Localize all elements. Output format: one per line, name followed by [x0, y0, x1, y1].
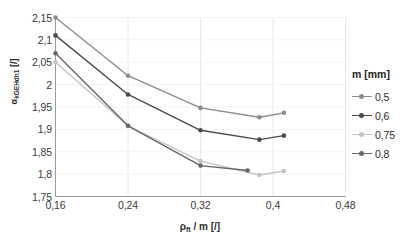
data-point — [53, 60, 58, 65]
data-point — [53, 51, 58, 56]
legend-items: 0,50,60,750,8 — [352, 87, 412, 163]
legend-label: 0,5 — [375, 91, 389, 103]
legend: m [mm] 0,50,60,750,8 — [352, 68, 412, 163]
legend-item[interactable]: 0,75 — [352, 125, 412, 144]
legend-swatch — [352, 149, 372, 159]
data-point — [245, 168, 250, 173]
x-axis-tick-labels: 0,160,240,320,40,48 — [55, 199, 345, 213]
data-point — [53, 15, 58, 20]
data-point — [257, 115, 262, 120]
legend-label: 0,75 — [375, 129, 395, 141]
legend-item[interactable]: 0,5 — [352, 87, 412, 106]
legend-marker — [359, 113, 364, 118]
data-point — [198, 128, 203, 133]
legend-label: 0,8 — [375, 148, 389, 160]
data-point — [126, 123, 131, 128]
data-point — [198, 159, 203, 164]
data-point — [282, 111, 287, 116]
series-line — [56, 18, 284, 118]
x-tick-label: 0,48 — [323, 199, 369, 211]
x-tick-label: 0,32 — [178, 199, 224, 211]
series-line — [56, 62, 284, 175]
data-point — [126, 73, 131, 78]
legend-item[interactable]: 0,6 — [352, 106, 412, 125]
legend-marker — [359, 94, 364, 99]
x-axis-title: ρft / m [/] — [55, 221, 345, 233]
legend-label: 0,6 — [375, 110, 389, 122]
data-point — [198, 106, 203, 111]
data-point — [53, 33, 58, 38]
x-axis-title-unit: / m [/] — [191, 221, 220, 232]
legend-swatch — [352, 111, 372, 121]
x-tick-label: 0,4 — [250, 199, 296, 211]
data-point — [282, 169, 287, 174]
legend-item[interactable]: 0,8 — [352, 144, 412, 163]
x-tick-label: 0,24 — [105, 199, 151, 211]
legend-swatch — [352, 92, 372, 102]
chart-container: αkGEHdh1 [/] 1,751,81,851,91,9522,052,12… — [0, 0, 414, 246]
data-point — [198, 163, 203, 168]
data-point — [257, 137, 262, 142]
x-tick-label: 0,16 — [33, 199, 79, 211]
legend-swatch — [352, 130, 372, 140]
legend-marker — [359, 132, 364, 137]
data-point — [257, 173, 262, 178]
series-line — [56, 53, 248, 170]
data-point — [126, 92, 131, 97]
legend-title: m [mm] — [352, 68, 412, 80]
legend-marker — [359, 151, 364, 156]
data-point — [282, 133, 287, 138]
